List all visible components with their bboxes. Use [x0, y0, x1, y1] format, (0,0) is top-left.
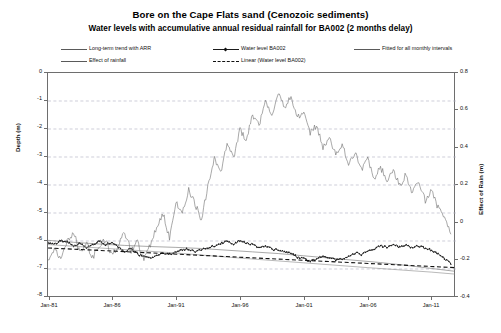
y-tick-label: -2	[26, 124, 42, 130]
legend-label: Long-term trend with ARR	[89, 46, 151, 51]
plot-svg	[48, 73, 456, 298]
legend-item-effect-of-rainfall[interactable]: Effect of rainfall	[61, 58, 126, 64]
y2-tick-label: -0.4	[460, 294, 480, 300]
legend-swatch-dashed-icon	[213, 58, 239, 64]
legend-swatch-line-icon	[354, 46, 380, 52]
x-tick-label: Jan-96	[223, 303, 257, 309]
series-line	[48, 245, 455, 275]
x-tick-label: Jan-81	[32, 303, 66, 309]
chart-title: Bore on the Cape Flats sand (Cenozoic se…	[0, 9, 501, 20]
y2-tick-label: 0.4	[460, 144, 480, 150]
series-line	[48, 94, 451, 261]
legend-item-fitted-intervals[interactable]: Fitted for all monthly intervals	[354, 46, 452, 52]
series-line	[48, 240, 451, 264]
y-tick-label: -1	[26, 96, 42, 102]
legend-item-water-level[interactable]: Water level BA002	[213, 46, 285, 52]
y-axis-right-title: Effect of Rain (m)	[477, 164, 484, 215]
y-tick-label: -3	[26, 152, 42, 158]
x-tick-label: Jan-06	[351, 303, 385, 309]
y-tick-label: -8	[26, 292, 42, 298]
legend-label: Fitted for all monthly intervals	[382, 46, 452, 51]
x-tick-label: Jan-11	[414, 303, 448, 309]
y-tick-label: -6	[26, 236, 42, 242]
series-line	[48, 248, 455, 268]
chart-container: Bore on the Cape Flats sand (Cenozoic se…	[0, 0, 501, 333]
legend-item-long-term-trend[interactable]: Long-term trend with ARR	[61, 46, 151, 52]
legend-label: Effect of rainfall	[89, 58, 126, 63]
legend-swatch-line-icon	[61, 58, 87, 64]
chart-legend: Long-term trend with ARR Water level BA0…	[47, 44, 495, 68]
legend-label: Linear (Water level BA002)	[241, 58, 306, 63]
y2-tick-label: 0.8	[460, 69, 480, 75]
legend-item-linear-water-level[interactable]: Linear (Water level BA002)	[213, 58, 306, 64]
y-tick-label: -7	[26, 264, 42, 270]
y-tick-label: -4	[26, 180, 42, 186]
y-tick-label: 0	[26, 69, 42, 75]
chart-subtitle: Water levels with accumulative annual re…	[0, 24, 501, 33]
y-tick-label: -5	[26, 208, 42, 214]
legend-swatch-line-icon	[61, 46, 87, 52]
x-tick-label: Jan-86	[95, 303, 129, 309]
legend-label: Water level BA002	[241, 46, 285, 51]
x-tick-label: Jan-91	[159, 303, 193, 309]
y-axis-left-title: Depth (m)	[14, 123, 21, 152]
plot-area	[47, 72, 455, 297]
y2-tick-label: -0.2	[460, 256, 480, 262]
x-tick-label: Jan-01	[287, 303, 321, 309]
y2-tick-label: 0	[460, 219, 480, 225]
legend-swatch-line-marker-icon	[213, 46, 239, 52]
data-series-layer	[48, 94, 455, 274]
y2-tick-label: 0.6	[460, 106, 480, 112]
